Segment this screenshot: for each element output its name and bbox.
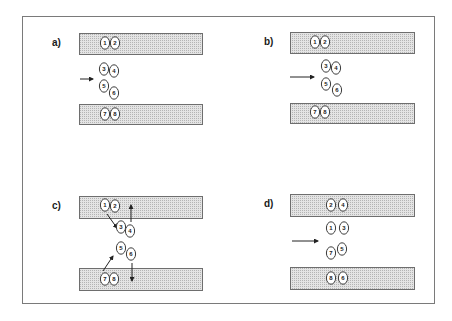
panel-a: a)12345678	[52, 34, 203, 125]
ion-3: 3	[339, 222, 348, 234]
upper-layer-bar	[80, 197, 203, 219]
lower-layer-bar	[291, 104, 415, 124]
ion-4: 4	[109, 65, 118, 77]
panel-label: d)	[264, 198, 273, 209]
ion-1: 1	[100, 199, 109, 211]
ion-6: 6	[338, 272, 347, 284]
ion-3: 3	[321, 60, 330, 72]
ion-5: 5	[99, 80, 108, 92]
panel-b: b)12345678	[264, 33, 415, 124]
ion-2: 2	[110, 37, 119, 49]
upper-layer-bar	[80, 34, 203, 55]
upper-layer-bar	[291, 195, 415, 217]
ion-8: 8	[326, 272, 335, 284]
ion-3: 3	[116, 221, 125, 233]
lower-layer-bar	[291, 268, 415, 290]
ion-2: 2	[110, 200, 119, 212]
ion-3: 3	[99, 63, 108, 75]
lower-layer-bar	[80, 269, 203, 291]
lower-layer-bar	[80, 105, 203, 125]
ion-7: 7	[100, 273, 109, 285]
ion-6: 6	[332, 84, 341, 96]
ion-1: 1	[326, 222, 335, 234]
panel-label: b)	[264, 36, 273, 47]
ion-6: 6	[126, 248, 135, 260]
ion-4: 4	[125, 225, 134, 237]
ion-2: 2	[320, 36, 329, 48]
ion-1: 1	[100, 37, 109, 49]
ion-crossing-diagram: a)12345678b)12345678c)12345678d)24137586	[0, 0, 452, 321]
ion-7: 7	[310, 106, 319, 118]
ion-5: 5	[321, 78, 330, 90]
ion-7: 7	[100, 108, 109, 120]
ion-8: 8	[110, 108, 119, 120]
ion-4: 4	[338, 199, 347, 211]
ion-8: 8	[109, 273, 118, 285]
panel-label: a)	[52, 37, 61, 48]
panel-label: c)	[52, 200, 61, 211]
ion-1: 1	[310, 36, 319, 48]
ion-5: 5	[337, 243, 346, 255]
figure-frame	[23, 17, 435, 304]
ion-7: 7	[326, 247, 335, 259]
ion-2: 2	[326, 199, 335, 211]
upper-layer-bar	[291, 33, 415, 54]
panel-c: c)12345678	[52, 197, 203, 291]
ion-6: 6	[109, 87, 118, 99]
ion-4: 4	[331, 62, 340, 74]
ion-8: 8	[320, 106, 329, 118]
panel-d: d)24137586	[264, 195, 415, 290]
ion-5: 5	[116, 242, 125, 254]
